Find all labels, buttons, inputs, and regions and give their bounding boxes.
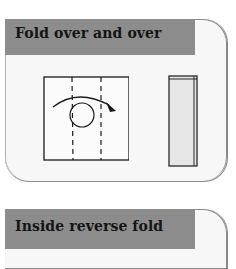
- panel-header: Fold over and over: [5, 19, 195, 55]
- inside-reverse-fold-panel: Inside reverse fold: [5, 209, 228, 269]
- panel-title: Fold over and over: [15, 25, 162, 41]
- fold-diagram-square: [39, 74, 129, 164]
- panel-header: Inside reverse fold: [5, 209, 195, 249]
- folded-strip-icon: [163, 71, 203, 171]
- fold-over-and-over-panel: Fold over and over: [5, 19, 228, 182]
- panel-title: Inside reverse fold: [15, 218, 163, 234]
